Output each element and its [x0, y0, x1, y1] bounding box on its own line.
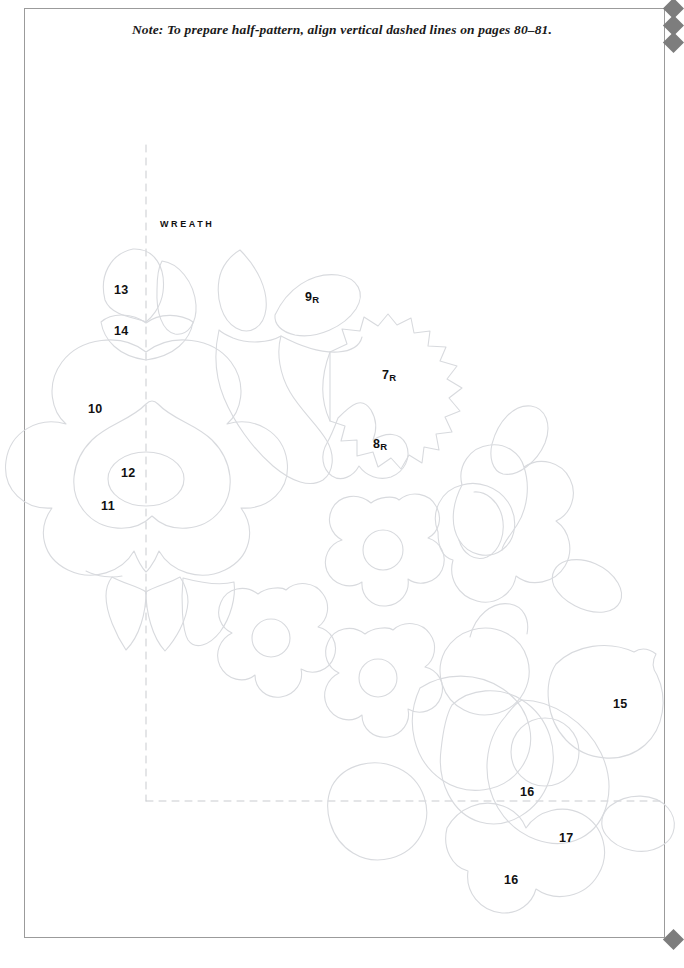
piece-17-petal [487, 700, 609, 843]
small-flower-a-outer [325, 494, 444, 606]
piece-7r-inner-divider [323, 352, 330, 421]
piece-number: 12 [121, 466, 136, 480]
leaf-lower-left-a [106, 577, 146, 650]
stem-upper-cluster [216, 330, 332, 484]
piece-11-heart-center [74, 401, 230, 528]
leaf-upper-center [218, 250, 266, 331]
leaf-right-of-rose [552, 560, 621, 613]
piece-number: 14 [114, 324, 129, 338]
piece-number-label: 13 [114, 284, 129, 297]
piece-number: 11 [101, 499, 115, 513]
leaf-lower-left-b [146, 577, 188, 651]
piece-number-label: 17 [559, 832, 574, 845]
piece-number-label: 10 [88, 403, 103, 416]
piece-8r-inner-scallop [323, 403, 408, 479]
piece-number-label: 15 [613, 698, 628, 711]
piece-number: 16 [520, 785, 535, 799]
leaf-mid-center [281, 336, 362, 352]
piece-number-label: 12 [121, 467, 136, 480]
leaf-lower-left-c [182, 578, 234, 646]
piece-16-lower-petal [446, 803, 605, 913]
wreath-title-label: WREATH [160, 219, 214, 229]
reversed-marker: R [380, 441, 387, 452]
piece-number: 17 [559, 831, 574, 845]
piece-number: 10 [88, 402, 103, 416]
piece-7r-jagged-flower [330, 314, 462, 469]
bloom-outer-petal-upper-left [440, 628, 529, 715]
small-flower-a-center [363, 530, 403, 570]
piece-number: 13 [114, 283, 129, 297]
small-flower-c-center [359, 659, 397, 697]
leaf-upper-left [157, 261, 196, 334]
piece-15-leaf [548, 646, 663, 759]
leaf-above-rose [491, 406, 548, 475]
piece-13-bud-top [103, 249, 163, 322]
piece-number-label: 16 [520, 786, 535, 799]
small-flower-c-outer [325, 624, 443, 738]
leaf-far-right-lower [602, 796, 675, 851]
piece-number-label: 8R [373, 438, 387, 451]
appliqué-pattern-drawing [0, 0, 684, 968]
piece-number-label: 11 [101, 500, 115, 513]
piece-number-label: 7R [382, 369, 396, 382]
reversed-marker: R [312, 294, 319, 305]
small-flower-b-center [252, 619, 290, 657]
piece-number: 16 [504, 873, 519, 887]
bloom-inner-circle [511, 718, 579, 786]
piece-9r-leaf [275, 275, 360, 336]
small-flower-b-outer [218, 584, 336, 698]
piece-number-label: 16 [504, 874, 519, 887]
piece-number-label: 14 [114, 325, 129, 338]
pattern-page: Note: To prepare half-pattern, align ver… [0, 0, 684, 968]
rose-petal-spiral-3 [502, 467, 527, 550]
leaf-bottom-left-of-bloom [328, 763, 427, 860]
piece-number-label: 9R [305, 291, 319, 304]
piece-number: 15 [613, 697, 628, 711]
bloom-top-leaf [470, 604, 528, 637]
reversed-marker: R [389, 372, 396, 383]
